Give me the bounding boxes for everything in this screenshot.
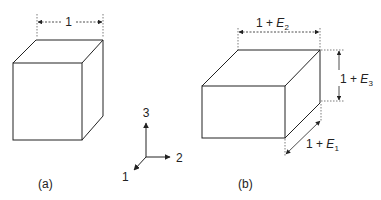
dimension-e3: 1 + E3 — [321, 50, 373, 101]
cube-width-dimension: 1 — [37, 14, 103, 38]
unit-cube — [13, 40, 103, 140]
dimension-e2-label: 1 + E2 — [256, 16, 289, 32]
dimension-e3-label: 1 + E3 — [340, 72, 373, 88]
axis-1-arrow-icon — [134, 157, 146, 170]
caption-a: (a) — [38, 177, 53, 191]
coordinate-axes — [134, 123, 170, 170]
cube-width-label: 1 — [65, 15, 72, 29]
strain-diagram: 1 (a) 3 2 1 1 + E2 1 + E3 1 + E1 (b) — [0, 0, 381, 200]
axis-2-label: 2 — [176, 151, 183, 165]
deformed-box — [202, 50, 320, 138]
caption-b: (b) — [238, 177, 253, 191]
dimension-e2: 1 + E2 — [238, 16, 320, 50]
dimension-e1-label: 1 + E1 — [306, 137, 339, 153]
axis-1-label: 1 — [122, 170, 129, 184]
axis-3-label: 3 — [143, 106, 150, 120]
